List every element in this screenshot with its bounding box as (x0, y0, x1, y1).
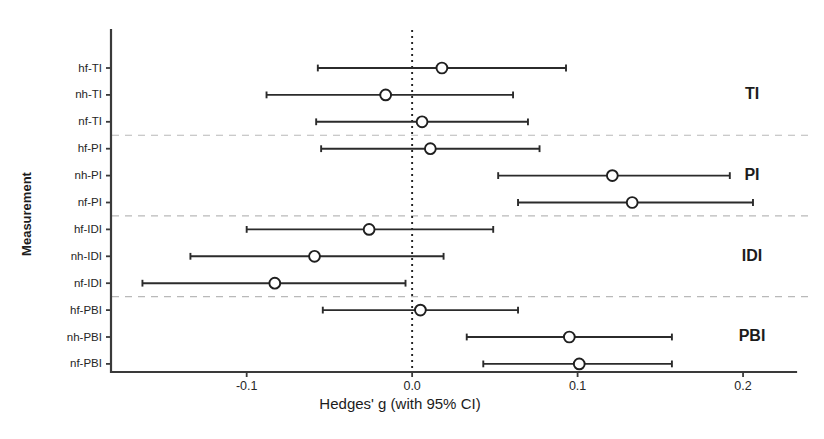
effect-size-marker (437, 63, 448, 74)
y-tick-label: nf-PI (78, 196, 102, 208)
x-tick-label: 0.2 (734, 379, 751, 393)
y-tick-label: hf-TI (78, 62, 102, 74)
axis-spines (111, 30, 796, 372)
x-tick-labels: -0.10.00.10.2 (236, 379, 752, 393)
y-tick-label: nh-PBI (67, 331, 102, 343)
forest-row (467, 332, 672, 343)
effect-size-marker (417, 116, 428, 127)
forest-row (323, 305, 518, 316)
effect-size-marker (309, 251, 320, 262)
effect-size-marker (564, 332, 575, 343)
y-tick-label: nh-TI (75, 88, 102, 100)
effect-size-marker (269, 278, 280, 289)
plot-frame (111, 30, 796, 372)
forest-plot-figure: hf-TInh-TInf-TIhf-PInh-PInf-PIhf-IDInh-I… (0, 0, 824, 439)
y-tick-label: hf-PBI (70, 304, 102, 316)
y-tick-label: nf-PBI (70, 357, 102, 369)
effect-size-marker (607, 170, 618, 181)
x-tick-label: 0.1 (569, 379, 586, 393)
y-tick-label: nf-IDI (74, 277, 102, 289)
y-axis-title: Measurement (19, 171, 34, 255)
group-separator-lines (112, 135, 812, 296)
forest-row (483, 359, 672, 370)
y-tick-label: hf-IDI (74, 223, 102, 235)
forest-row (518, 197, 753, 208)
effect-size-marker (415, 305, 426, 316)
group-label-idi: IDI (742, 247, 762, 264)
forest-row (321, 143, 539, 154)
forest-row (190, 251, 443, 262)
axis-ticks (106, 68, 743, 377)
effect-size-marker (364, 224, 375, 235)
x-tick-label: 0.0 (403, 379, 420, 393)
y-tick-label: nf-TI (78, 115, 102, 127)
forest-plot-canvas: hf-TInh-TInf-TIhf-PInh-PInf-PIhf-IDInh-I… (0, 0, 824, 439)
forest-row (498, 170, 730, 181)
effect-size-marker (627, 197, 638, 208)
effect-size-marker (425, 143, 436, 154)
group-label-pbi: PBI (739, 327, 766, 344)
group-label-pi: PI (744, 166, 759, 183)
y-tick-labels: hf-TInh-TInf-TIhf-PInh-PInf-PIhf-IDInh-I… (67, 62, 102, 370)
group-labels: TIPIIDIPBI (739, 85, 766, 344)
forest-row (318, 63, 566, 74)
group-label-ti: TI (745, 85, 759, 102)
effect-size-marker (574, 359, 585, 370)
forest-row (316, 116, 528, 127)
forest-row (267, 90, 514, 101)
x-axis-title: Hedges' g (with 95% CI) (319, 395, 480, 412)
effect-size-marker (380, 90, 391, 101)
y-tick-label: nh-IDI (71, 250, 102, 262)
forest-row (142, 278, 405, 289)
y-tick-label: hf-PI (78, 142, 102, 154)
x-tick-label: -0.1 (236, 379, 258, 393)
y-tick-label: nh-PI (75, 169, 103, 181)
forest-row (247, 224, 494, 235)
